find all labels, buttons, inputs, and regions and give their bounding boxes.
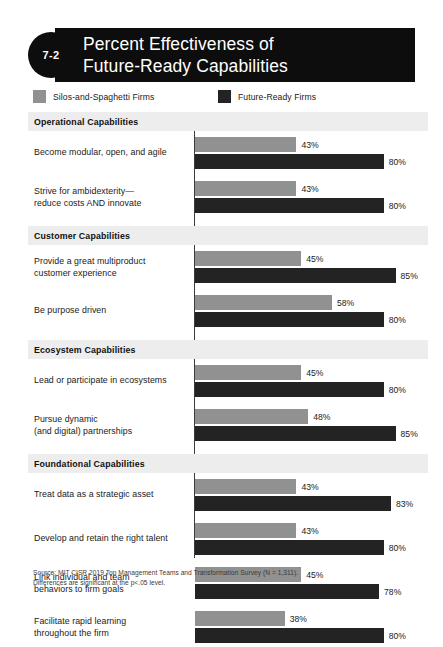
section-spacer [28, 333, 428, 340]
bar-wrapper-future: 80% [195, 540, 428, 555]
chart-row-bars: 45%85% [195, 251, 428, 283]
bar-value-label-future: 83% [396, 499, 413, 509]
bar-future [195, 198, 384, 213]
bar-silos [195, 251, 301, 266]
bar-value-label-future: 80% [389, 385, 406, 395]
bar-wrapper-silos: 38% [195, 611, 428, 626]
chart-sections: Operational CapabilitiesBecome modular, … [28, 112, 428, 647]
chart-row-bars: 45%80% [195, 365, 428, 397]
page-title: Percent Effectiveness of Future-Ready Ca… [83, 33, 407, 77]
section-header-band: Foundational Capabilities [28, 454, 428, 473]
chart-legend: Silos-and-Spaghetti Firms Future-Ready F… [33, 90, 423, 106]
chart-row: Treat data as a strategic asset43%83% [28, 473, 428, 517]
bar-wrapper-silos: 48% [195, 409, 428, 424]
chart-row-label: Provide a great multiproductcustomer exp… [34, 256, 192, 279]
bar-value-label-future: 80% [389, 315, 406, 325]
chart-row: Be purpose driven58%80% [28, 289, 428, 333]
bar-value-label-silos: 45% [306, 254, 323, 264]
bar-value-label-silos: 43% [301, 526, 318, 536]
bar-value-label-silos: 43% [301, 140, 318, 150]
bar-silos [195, 181, 296, 196]
chart-row-bars: 43%80% [195, 523, 428, 555]
bar-wrapper-future: 80% [195, 312, 428, 327]
legend-swatch-icon-future [218, 90, 231, 103]
bar-value-label-silos: 48% [313, 412, 330, 422]
bar-silos [195, 137, 296, 152]
bar-wrapper-future: 80% [195, 198, 428, 213]
chart-row: Provide a great multiproductcustomer exp… [28, 245, 428, 289]
section-title: Ecosystem Capabilities [28, 345, 136, 355]
chart-row-label: Facilitate rapid learningthroughout the … [34, 616, 192, 639]
bar-value-label-future: 80% [389, 631, 406, 641]
bar-wrapper-silos: 58% [195, 295, 428, 310]
bar-value-label-silos: 45% [306, 368, 323, 378]
footnote-line-1: Source: MIT CISR 2019 Top Management Tea… [33, 568, 413, 578]
chart-row-label: Pursue dynamic(and digital) partnerships [34, 414, 192, 437]
bar-silos [195, 365, 301, 380]
title-line-1: Percent Effectiveness of [83, 33, 407, 55]
chart-row-bars: 48%85% [195, 409, 428, 441]
bar-wrapper-silos: 45% [195, 365, 428, 380]
bar-wrapper-silos: 43% [195, 137, 428, 152]
chart-row-bars: 43%83% [195, 479, 428, 511]
bar-silos [195, 409, 308, 424]
bar-wrapper-silos: 43% [195, 523, 428, 538]
bar-wrapper-future: 80% [195, 382, 428, 397]
footnote-line-2: Differences are significant at the p<.05… [33, 578, 413, 588]
legend-label-future: Future-Ready Firms [238, 92, 316, 102]
section-title: Customer Capabilities [28, 231, 130, 241]
bar-wrapper-future: 80% [195, 154, 428, 169]
bar-value-label-silos: 58% [337, 298, 354, 308]
section-title: Operational Capabilities [28, 117, 138, 127]
bar-future [195, 312, 384, 327]
chart-row: Lead or participate in ecosystems45%80% [28, 359, 428, 403]
section-header-band: Customer Capabilities [28, 226, 428, 245]
bar-value-label-future: 80% [389, 157, 406, 167]
bar-future [195, 496, 391, 511]
section-header-band: Operational Capabilities [28, 112, 428, 131]
bar-value-label-silos: 43% [301, 184, 318, 194]
bar-wrapper-silos: 45% [195, 251, 428, 266]
bar-value-label-silos: 43% [301, 482, 318, 492]
section-title: Foundational Capabilities [28, 459, 145, 469]
legend-swatch-icon-silos [33, 90, 46, 103]
chart-row-bars: 58%80% [195, 295, 428, 327]
bar-value-label-future: 80% [389, 543, 406, 553]
bar-future [195, 540, 384, 555]
bar-value-label-silos: 38% [290, 614, 307, 624]
chart-row-label: Lead or participate in ecosystems [34, 375, 192, 387]
bar-future [195, 268, 396, 283]
chart-row: Strive for ambidexterity—reduce costs AN… [28, 175, 428, 219]
bar-silos [195, 523, 296, 538]
title-line-2: Future-Ready Capabilities [83, 55, 407, 77]
bar-chart: Operational CapabilitiesBecome modular, … [28, 112, 428, 647]
chart-row: Facilitate rapid learningthroughout the … [28, 605, 428, 647]
bar-wrapper-future: 85% [195, 268, 428, 283]
chart-row-bars: 43%80% [195, 137, 428, 169]
bar-future [195, 628, 384, 643]
bar-silos [195, 295, 332, 310]
chart-row-label: Become modular, open, and agile [34, 147, 192, 159]
bar-value-label-future: 80% [389, 201, 406, 211]
bar-value-label-future: 78% [384, 587, 401, 597]
source-footnote: Source: MIT CISR 2019 Top Management Tea… [33, 568, 413, 587]
figure-header: Percent Effectiveness of Future-Ready Ca… [28, 28, 415, 82]
chart-row-bars: 43%80% [195, 181, 428, 213]
legend-item-silos: Silos-and-Spaghetti Firms [33, 90, 154, 103]
section-header-band: Ecosystem Capabilities [28, 340, 428, 359]
figure-number-badge: 7-2 [28, 32, 74, 78]
chart-row-label: Strive for ambidexterity—reduce costs AN… [34, 186, 192, 209]
chart-row: Develop and retain the right talent43%80… [28, 517, 428, 561]
chart-row-label: Treat data as a strategic asset [34, 489, 192, 501]
bar-wrapper-silos: 43% [195, 181, 428, 196]
legend-item-future: Future-Ready Firms [218, 90, 316, 103]
bar-wrapper-future: 83% [195, 496, 428, 511]
bar-silos [195, 479, 296, 494]
bar-silos [195, 611, 285, 626]
section-spacer [28, 219, 428, 226]
bar-wrapper-silos: 43% [195, 479, 428, 494]
bar-value-label-future: 85% [401, 429, 418, 439]
bar-future [195, 154, 384, 169]
chart-row-bars: 38%80% [195, 611, 428, 643]
legend-label-silos: Silos-and-Spaghetti Firms [53, 92, 154, 102]
